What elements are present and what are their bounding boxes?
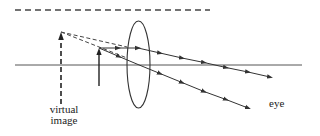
ray-central-lower — [226, 100, 248, 109]
ray-refracted-upper — [182, 58, 204, 63]
ray-central-lower — [138, 65, 160, 74]
ray-central-lower — [182, 83, 204, 92]
eye-label: eye — [269, 98, 284, 109]
ray-central-segment — [99, 48, 119, 57]
virtual-image-label: virtual image — [47, 104, 81, 126]
ray-refracted-upper — [248, 72, 270, 77]
ray-central-segment — [119, 57, 138, 65]
ray-refracted-upper — [226, 68, 248, 73]
dashed-extension-lower — [61, 32, 127, 58]
virtual-image-label-line2: image — [47, 115, 81, 126]
ray-central-lower — [160, 74, 182, 83]
ray-central-lower — [204, 92, 226, 100]
ray-refracted-upper — [160, 53, 182, 58]
